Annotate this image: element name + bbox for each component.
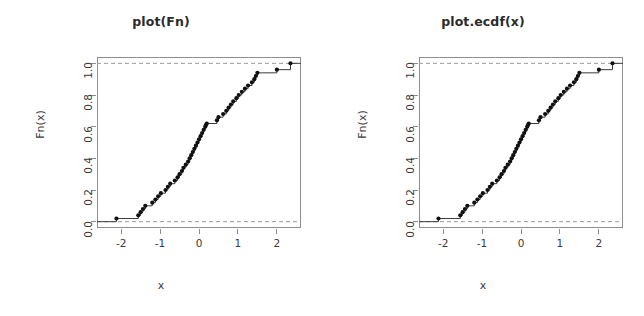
x-axis-tick-label: 2 bbox=[584, 237, 614, 249]
page-title: plot.ecdf(x) bbox=[322, 14, 644, 29]
x-axis-tick bbox=[482, 229, 483, 234]
plot-area bbox=[419, 57, 623, 228]
y-axis-tick-label: 1.0 bbox=[82, 62, 94, 89]
x-axis-tick-label: -1 bbox=[467, 237, 497, 249]
y-axis-tick-label: 0.0 bbox=[82, 221, 94, 248]
y-axis-tick-label: 0.2 bbox=[82, 189, 94, 216]
x-axis-tick-label: -2 bbox=[106, 237, 136, 249]
y-axis-label: Fn(x) bbox=[34, 110, 47, 138]
x-axis-tick bbox=[559, 229, 560, 234]
panel-plot-fn: plot(Fn) Fn(x) x 0.00.20.40.60.81.0-2-10… bbox=[0, 0, 322, 316]
plot-area bbox=[97, 57, 301, 228]
x-axis-tick-label: 1 bbox=[223, 237, 253, 249]
x-axis-tick-label: -1 bbox=[145, 237, 175, 249]
x-axis-tick-label: -2 bbox=[428, 237, 458, 249]
x-axis-tick bbox=[276, 229, 277, 234]
y-axis-tick-label: 0.8 bbox=[404, 94, 416, 121]
y-axis-tick-label: 0.6 bbox=[82, 126, 94, 153]
y-axis-tick-label: 0.6 bbox=[404, 126, 416, 153]
ecdf-curve bbox=[97, 57, 301, 228]
x-axis-label: x bbox=[0, 279, 322, 292]
x-axis-tick-label: 0 bbox=[506, 237, 536, 249]
x-axis-tick bbox=[160, 229, 161, 234]
panel-plot-ecdf: plot.ecdf(x) Fn(x) x 0.00.20.40.60.81.0-… bbox=[322, 0, 644, 316]
y-axis-label: Fn(x) bbox=[356, 110, 369, 138]
x-axis-tick-label: 1 bbox=[545, 237, 575, 249]
x-axis-tick-label: 0 bbox=[184, 237, 214, 249]
x-axis-tick-label: 2 bbox=[262, 237, 292, 249]
x-axis-tick bbox=[521, 229, 522, 234]
x-axis-tick bbox=[121, 229, 122, 234]
ecdf-figure: plot(Fn) Fn(x) x 0.00.20.40.60.81.0-2-10… bbox=[0, 0, 644, 316]
x-axis-tick bbox=[237, 229, 238, 234]
y-axis-tick-label: 0.0 bbox=[404, 221, 416, 248]
page-title: plot(Fn) bbox=[0, 14, 322, 29]
ecdf-curve bbox=[419, 57, 623, 228]
y-axis-tick-label: 0.2 bbox=[404, 189, 416, 216]
x-axis-tick bbox=[598, 229, 599, 234]
y-axis-tick-label: 0.8 bbox=[82, 94, 94, 121]
y-axis-tick-label: 0.4 bbox=[82, 157, 94, 184]
y-axis-tick-label: 0.4 bbox=[404, 157, 416, 184]
y-axis-tick-label: 1.0 bbox=[404, 62, 416, 89]
x-axis-tick bbox=[199, 229, 200, 234]
x-axis-tick bbox=[443, 229, 444, 234]
x-axis-label: x bbox=[322, 279, 644, 292]
